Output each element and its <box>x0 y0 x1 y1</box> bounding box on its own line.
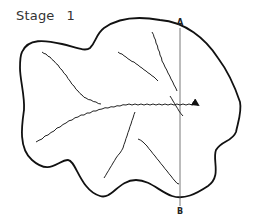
tributary-top <box>152 32 177 91</box>
tributary-right-branch <box>170 96 183 116</box>
drainage-basin-diagram <box>0 0 259 220</box>
tributary-lower-right <box>138 139 179 184</box>
tributary-upper-left <box>42 52 101 104</box>
section-label-a: A <box>177 18 183 27</box>
main-river <box>36 104 198 142</box>
tributary-upper-middle <box>118 52 158 81</box>
tributary-lower-left <box>104 112 135 178</box>
section-label-b: B <box>177 207 183 216</box>
basin-outline <box>20 18 241 197</box>
